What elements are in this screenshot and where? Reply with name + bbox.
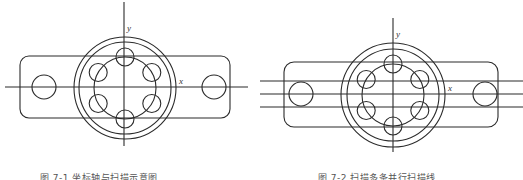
x-axis-label: x (447, 83, 452, 93)
y-axis-label: y (126, 23, 131, 33)
caption-left: 图 7-1 坐标轴与扫描示意图 (40, 171, 158, 180)
figure-right-parallel-scan-lines: xy (260, 18, 523, 152)
flange-circle-1 (74, 37, 176, 139)
figure-stage: xy xy 图 7-1 坐标轴与扫描示意图 图 7-2 扫描多条并行扫描线 (0, 0, 523, 180)
flange-diagrams: xy xy (0, 0, 523, 180)
caption-right: 图 7-2 扫描多条并行扫描线 (318, 171, 436, 180)
x-axis-label: x (178, 76, 183, 86)
y-axis-label: y (395, 29, 400, 39)
figure-left-flange-scan: xy (5, 2, 248, 146)
